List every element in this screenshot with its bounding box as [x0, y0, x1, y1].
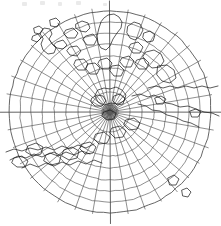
scan-smudge [40, 1, 45, 5]
scan-smudge [76, 1, 81, 5]
scan-smudge [103, 3, 107, 6]
scan-smudge [58, 2, 62, 6]
scan-smudge [22, 2, 27, 6]
meridian-line [109, 1, 110, 106]
map-canvas [0, 0, 221, 226]
polar-map-figure [0, 0, 221, 226]
pole-point [109, 111, 111, 113]
